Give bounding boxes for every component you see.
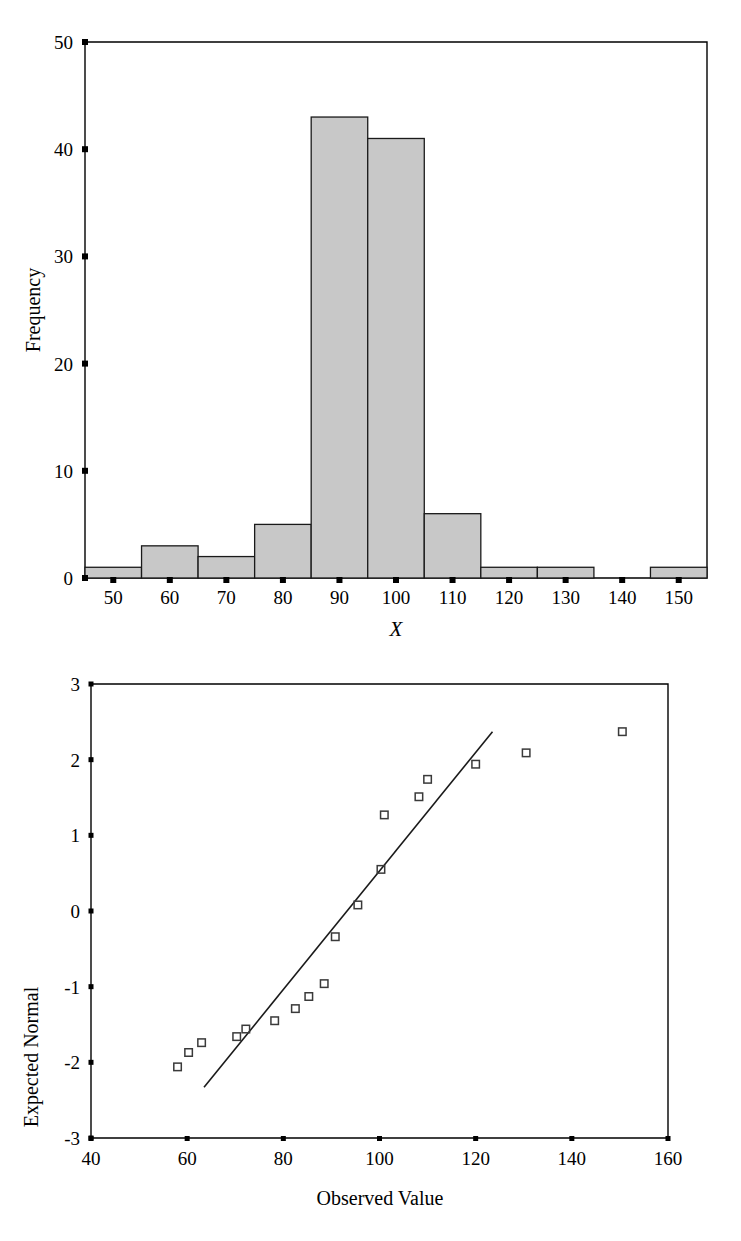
x-tick-mark — [676, 577, 682, 583]
qq-data-point — [185, 1049, 193, 1057]
x-tick-label: 100 — [365, 1148, 394, 1169]
qq-data-point — [424, 776, 432, 784]
qq-reference-line-segment — [204, 732, 493, 1088]
x-tick-mark — [619, 577, 625, 583]
x-tick-label: 90 — [330, 587, 349, 608]
qq-data-point — [472, 760, 480, 768]
qq-data-point — [381, 811, 389, 819]
y-tick-mark — [89, 682, 94, 687]
y-tick-label: -3 — [64, 1128, 80, 1149]
histogram-bar — [142, 546, 199, 578]
y-tick-label: 50 — [54, 32, 73, 53]
x-tick-label: 120 — [461, 1148, 490, 1169]
x-tick-label: 130 — [551, 587, 580, 608]
histogram-bar — [198, 557, 255, 578]
x-tick-label: 140 — [558, 1148, 587, 1169]
histogram-y-tick-labels: 01020304050 — [54, 32, 73, 589]
histogram-bars — [85, 117, 707, 578]
y-tick-mark — [89, 1060, 94, 1065]
x-tick-mark — [185, 1136, 190, 1141]
histogram-x-axis-title: X — [389, 617, 404, 641]
y-tick-mark — [89, 1136, 94, 1141]
qq-plot-figure: 406080100120140160 -3-2-10123 Observed V… — [0, 645, 741, 1241]
x-tick-mark — [506, 577, 512, 583]
y-tick-label: 0 — [71, 901, 81, 922]
y-tick-label: 40 — [54, 139, 73, 160]
qq-data-point — [198, 1039, 206, 1047]
x-tick-label: 160 — [654, 1148, 683, 1169]
qq-x-axis-title: Observed Value — [317, 1187, 444, 1209]
x-tick-mark — [450, 577, 456, 583]
x-tick-mark — [336, 577, 342, 583]
y-tick-mark — [89, 833, 94, 838]
qq-data-point — [522, 749, 530, 757]
y-tick-label: 1 — [71, 825, 81, 846]
x-tick-label: 70 — [217, 587, 236, 608]
y-tick-mark — [82, 468, 88, 474]
qq-data-point — [619, 728, 627, 736]
x-tick-label: 60 — [160, 587, 179, 608]
y-tick-label: 0 — [64, 568, 74, 589]
y-tick-label: 10 — [54, 461, 73, 482]
qq-y-tick-labels: -3-2-10123 — [64, 674, 80, 1149]
histogram-bar — [85, 567, 142, 578]
x-tick-label: 80 — [273, 587, 292, 608]
x-tick-label: 80 — [274, 1148, 293, 1169]
x-tick-mark — [473, 1136, 478, 1141]
y-tick-mark — [89, 909, 94, 914]
y-tick-mark — [82, 575, 88, 581]
qq-data-points — [174, 728, 626, 1071]
y-tick-mark — [89, 984, 94, 989]
qq-y-axis-title: Expected Normal — [20, 986, 43, 1127]
y-tick-label: -2 — [64, 1052, 80, 1073]
x-tick-mark — [563, 577, 569, 583]
x-tick-label: 50 — [104, 587, 123, 608]
y-tick-mark — [82, 39, 88, 45]
qq-data-point — [233, 1033, 241, 1041]
histogram-bar — [368, 138, 425, 578]
histogram-y-axis-title: Frequency — [22, 268, 45, 352]
x-tick-mark — [569, 1136, 574, 1141]
qq-data-point — [320, 980, 328, 988]
qq-x-tick-labels: 406080100120140160 — [82, 1148, 683, 1169]
y-tick-label: 20 — [54, 354, 73, 375]
x-tick-mark — [167, 577, 173, 583]
y-tick-label: 30 — [54, 246, 73, 267]
x-tick-label: 150 — [664, 587, 693, 608]
y-tick-label: 3 — [71, 674, 81, 695]
qq-tick-marks — [89, 682, 671, 1142]
y-tick-mark — [89, 757, 94, 762]
histogram-figure: 5060708090100110120130140150 01020304050… — [0, 0, 741, 645]
histogram-svg: 5060708090100110120130140150 01020304050… — [0, 0, 741, 645]
histogram-bar — [537, 567, 594, 578]
histogram-bar — [311, 117, 368, 578]
qq-plot-svg: 406080100120140160 -3-2-10123 Observed V… — [0, 645, 741, 1241]
qq-data-point — [332, 933, 340, 941]
x-tick-mark — [377, 1136, 382, 1141]
x-tick-mark — [280, 577, 286, 583]
x-tick-label: 60 — [178, 1148, 197, 1169]
qq-data-point — [174, 1063, 182, 1071]
qq-data-point — [292, 1005, 300, 1013]
x-tick-mark — [110, 577, 116, 583]
x-tick-label: 100 — [382, 587, 411, 608]
qq-reference-line — [204, 732, 493, 1088]
x-tick-label: 110 — [439, 587, 467, 608]
x-tick-mark — [666, 1136, 671, 1141]
y-tick-mark — [82, 361, 88, 367]
qq-data-point — [305, 993, 313, 1001]
qq-data-point — [271, 1017, 279, 1025]
y-tick-mark — [82, 146, 88, 152]
qq-data-point — [354, 901, 362, 909]
x-tick-mark — [281, 1136, 286, 1141]
y-tick-label: 2 — [71, 750, 81, 771]
histogram-bar — [255, 524, 312, 578]
histogram-bar — [481, 567, 538, 578]
y-tick-label: -1 — [64, 977, 80, 998]
x-tick-mark — [393, 577, 399, 583]
histogram-bar — [650, 567, 707, 578]
x-tick-mark — [223, 577, 229, 583]
qq-data-point — [415, 793, 423, 801]
x-tick-label: 40 — [82, 1148, 101, 1169]
histogram-x-tick-labels: 5060708090100110120130140150 — [104, 587, 693, 608]
